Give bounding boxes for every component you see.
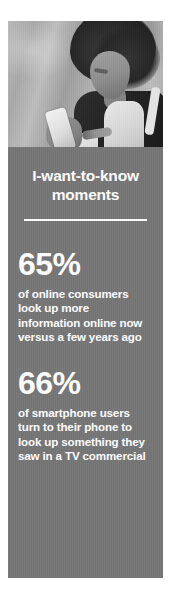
stat-block-1: 65% of online consumers look up more inf… (8, 247, 163, 344)
stat-description-1: of online consumers look up more informa… (18, 287, 153, 344)
photo-grain-overlay (8, 21, 163, 147)
stat-description-line: look up more (18, 301, 153, 315)
stat-block-2: 66% of smartphone users turn to their ph… (8, 366, 163, 463)
title-divider (24, 219, 147, 221)
stat-description-line: saw in a TV commercial (18, 449, 153, 463)
stat-description-line: of online consumers (18, 287, 153, 301)
stat-description-line: of smartphone users (18, 406, 153, 420)
card-content: I-want-to-know moments 65% of online con… (8, 147, 163, 463)
stat-number-2: 66% (18, 366, 153, 400)
stat-description-line: look up something they (18, 435, 153, 449)
card-title: I-want-to-know moments (8, 147, 163, 204)
stat-description-line: turn to their phone to (18, 420, 153, 434)
header-photo (8, 21, 163, 147)
stat-description-line: information online now (18, 316, 153, 330)
infographic-card: I-want-to-know moments 65% of online con… (8, 21, 163, 578)
stat-description-2: of smartphone users turn to their phone … (18, 406, 153, 463)
stat-description-line: versus a few years ago (18, 330, 153, 344)
stat-number-1: 65% (18, 247, 153, 281)
